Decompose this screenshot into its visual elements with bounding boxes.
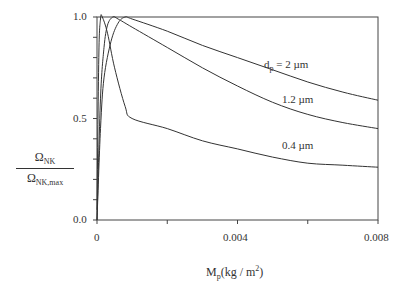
series-label-1.2um: 1.2 µm [282, 93, 313, 105]
x-axis-label: Mp(kg / m2) [206, 264, 263, 281]
y-axis-label-numerator: ΩNK [16, 150, 74, 169]
series-line-0 [97, 17, 378, 220]
plot-frame [97, 17, 378, 220]
chart-canvas [0, 0, 408, 297]
x-tick-label-0.008: 0.008 [364, 231, 389, 243]
series-line-1 [97, 17, 378, 220]
x-tick-label-0.004: 0.004 [223, 231, 248, 243]
y-tick-label-1: 1.0 [73, 10, 87, 22]
series-label-0.4um: 0.4 µm [282, 139, 313, 151]
y-tick-label-0.5: 0.5 [73, 112, 87, 124]
x-tick-label-0: 0 [94, 231, 100, 243]
plot-curves [97, 15, 378, 220]
y-axis-label-denominator: ΩNK,max [16, 169, 74, 187]
y-axis-label: ΩNK ΩNK,max [16, 150, 74, 188]
series-label-2um: dp = 2 µm [264, 58, 308, 73]
y-tick-label-0: 0.0 [73, 213, 87, 225]
series-line-2 [97, 15, 378, 210]
